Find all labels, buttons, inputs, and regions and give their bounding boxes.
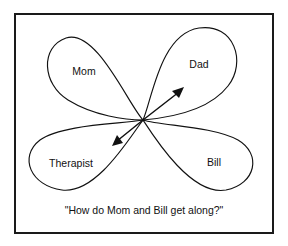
figure-container: Mom Dad Therapist Bill "How do Mom and B… <box>0 0 288 246</box>
petal-label-mom: Mom <box>72 65 96 77</box>
petal-label-bill: Bill <box>207 156 221 168</box>
petal-label-therapist: Therapist <box>49 157 93 169</box>
petal-label-dad: Dad <box>189 58 208 70</box>
petal-diagram-svg: Mom Dad Therapist Bill "How do Mom and B… <box>0 0 288 246</box>
diagram-caption: "How do Mom and Bill get along?" <box>65 204 224 216</box>
